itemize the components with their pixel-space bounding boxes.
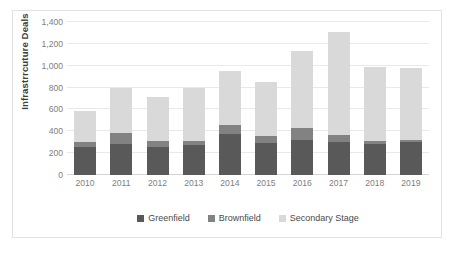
bar-segment-greenfield[interactable] bbox=[400, 142, 422, 175]
y-tick-label: 800 bbox=[22, 83, 63, 92]
bar-segment-brownfield[interactable] bbox=[291, 128, 313, 140]
bar-segment-brownfield[interactable] bbox=[183, 141, 205, 145]
bar-group[interactable] bbox=[328, 22, 350, 175]
y-tick-label: 400 bbox=[22, 127, 63, 136]
plot-area bbox=[67, 22, 429, 175]
bar-group[interactable] bbox=[291, 22, 313, 175]
bar-segment-brownfield[interactable] bbox=[147, 141, 169, 146]
x-tick-label: 2011 bbox=[103, 179, 139, 188]
legend-item-greenfield[interactable]: Greenfield bbox=[137, 214, 190, 223]
x-tick-label: 2010 bbox=[67, 179, 103, 188]
bar-segment-secondary-stage[interactable] bbox=[400, 68, 422, 139]
y-tick-label: 1,000 bbox=[22, 61, 63, 70]
x-tick-label: 2019 bbox=[393, 179, 429, 188]
bar-segment-brownfield[interactable] bbox=[255, 136, 277, 144]
bar-group[interactable] bbox=[255, 22, 277, 175]
bar-segment-secondary-stage[interactable] bbox=[219, 71, 241, 126]
bar-segment-secondary-stage[interactable] bbox=[110, 88, 132, 134]
legend-item-secondary-stage[interactable]: Secondary Stage bbox=[279, 214, 359, 223]
bar-segment-greenfield[interactable] bbox=[110, 144, 132, 175]
bar-segment-greenfield[interactable] bbox=[219, 134, 241, 175]
bar-group[interactable] bbox=[183, 22, 205, 175]
bar-segment-greenfield[interactable] bbox=[328, 142, 350, 175]
y-tick-label: 1,400 bbox=[22, 18, 63, 27]
x-axis-tick-labels: 2010201120122013201420152016201720182019 bbox=[67, 179, 429, 193]
x-tick-label: 2016 bbox=[284, 179, 320, 188]
y-tick-label: 1,200 bbox=[22, 40, 63, 49]
bar-segment-greenfield[interactable] bbox=[183, 145, 205, 175]
x-tick-label: 2014 bbox=[212, 179, 248, 188]
x-tick-label: 2013 bbox=[176, 179, 212, 188]
bar-segment-greenfield[interactable] bbox=[147, 147, 169, 175]
legend-label: Secondary Stage bbox=[290, 214, 359, 223]
legend-label: Greenfield bbox=[148, 214, 190, 223]
x-tick-label: 2012 bbox=[139, 179, 175, 188]
bar-segment-secondary-stage[interactable] bbox=[147, 97, 169, 141]
y-tick-label: 200 bbox=[22, 149, 63, 158]
bar-segment-brownfield[interactable] bbox=[364, 141, 386, 144]
x-tick-label: 2018 bbox=[357, 179, 393, 188]
bar-segment-greenfield[interactable] bbox=[364, 144, 386, 175]
bar-segment-greenfield[interactable] bbox=[291, 140, 313, 175]
bar-segment-brownfield[interactable] bbox=[219, 125, 241, 134]
bar-group[interactable] bbox=[400, 22, 422, 175]
bar-segment-brownfield[interactable] bbox=[328, 135, 350, 142]
y-tick-label: 600 bbox=[22, 105, 63, 114]
bar-segment-secondary-stage[interactable] bbox=[291, 51, 313, 128]
bar-segment-secondary-stage[interactable] bbox=[183, 88, 205, 141]
bar-segment-secondary-stage[interactable] bbox=[328, 32, 350, 135]
bar-segment-brownfield[interactable] bbox=[74, 142, 96, 147]
bar-group[interactable] bbox=[110, 22, 132, 175]
bar-segment-brownfield[interactable] bbox=[110, 133, 132, 144]
x-tick-label: 2017 bbox=[320, 179, 356, 188]
y-tick-label: 0 bbox=[22, 171, 63, 180]
legend-swatch-icon bbox=[137, 215, 144, 222]
bar-group[interactable] bbox=[147, 22, 169, 175]
bar-segment-greenfield[interactable] bbox=[74, 147, 96, 175]
chart-legend: GreenfieldBrownfieldSecondary Stage bbox=[67, 214, 429, 223]
bar-group[interactable] bbox=[74, 22, 96, 175]
bar-group[interactable] bbox=[219, 22, 241, 175]
bar-segment-greenfield[interactable] bbox=[255, 143, 277, 175]
bar-segment-secondary-stage[interactable] bbox=[74, 111, 96, 143]
y-axis-tick-labels: 02004006008001,0001,2001,400 bbox=[22, 22, 63, 175]
legend-label: Brownfield bbox=[219, 214, 261, 223]
legend-swatch-icon bbox=[208, 215, 215, 222]
bar-segment-brownfield[interactable] bbox=[400, 140, 422, 142]
bar-segment-secondary-stage[interactable] bbox=[364, 67, 386, 141]
legend-swatch-icon bbox=[279, 215, 286, 222]
legend-item-brownfield[interactable]: Brownfield bbox=[208, 214, 261, 223]
bar-segment-secondary-stage[interactable] bbox=[255, 82, 277, 136]
bar-group[interactable] bbox=[364, 22, 386, 175]
x-tick-label: 2015 bbox=[248, 179, 284, 188]
